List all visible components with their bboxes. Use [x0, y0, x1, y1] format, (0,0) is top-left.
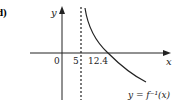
origin-label: 0	[54, 56, 60, 66]
curve	[85, 8, 146, 82]
intercept-tick-label: 12.4	[88, 56, 108, 66]
y-axis-label: y	[50, 7, 57, 18]
y-axis-arrow-icon	[59, 6, 65, 14]
curve-label: y = f⁻¹(x)	[127, 90, 171, 100]
part-label: d)	[0, 6, 7, 19]
asymptote-tick-label: 5	[73, 56, 79, 66]
x-axis-label: x	[166, 56, 172, 67]
graph: d) y x 0 5 12.4 y = f⁻¹(x)	[0, 0, 173, 106]
